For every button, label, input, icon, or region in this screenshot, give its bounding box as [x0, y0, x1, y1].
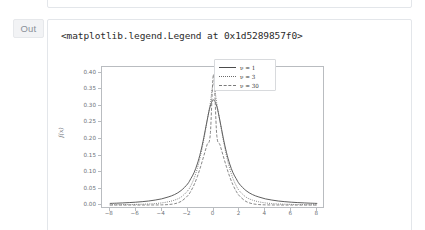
series-curve-solid — [110, 100, 317, 204]
series-curve-dotted — [110, 84, 317, 205]
y-tick-label: 0.40 — [56, 67, 101, 77]
plot-axes-frame — [101, 66, 324, 208]
y-tick-label: 0.35 — [56, 83, 101, 93]
legend-line-swatch-dashed — [219, 82, 236, 89]
legend: ν = 1ν = 3ν = 30 — [214, 59, 276, 91]
legend-entry: ν = 30 — [215, 81, 277, 90]
x-axis-label: x — [210, 227, 213, 230]
y-tick-label: 0.20 — [56, 133, 101, 143]
y-tick-label: 0.10 — [56, 166, 101, 176]
series-curve-dashed — [110, 74, 317, 205]
output-cell: <matplotlib.legend.Legend at 0x1d5289857… — [47, 19, 412, 230]
y-tick-label: 0.30 — [56, 100, 101, 110]
legend-label: ν = 1 — [240, 65, 255, 71]
legend-label: ν = 30 — [240, 83, 259, 89]
output-repr-text: <matplotlib.legend.Legend at 0x1d5289857… — [61, 30, 303, 41]
notebook-output-screen: Out <matplotlib.legend.Legend at 0x1d528… — [0, 0, 425, 230]
legend-line-swatch-dotted — [219, 73, 236, 80]
y-tick-label: 0.00 — [56, 199, 101, 209]
legend-entry: ν = 1 — [215, 63, 277, 72]
y-tick-label: 0.25 — [56, 116, 101, 126]
y-tick-label: 0.05 — [56, 183, 101, 193]
matplotlib-figure: f(x) x 0.000.050.100.150.200.250.300.350… — [56, 56, 346, 230]
legend-entry: ν = 3 — [215, 72, 277, 81]
output-gutter-label: Out — [13, 19, 44, 38]
legend-label: ν = 3 — [240, 74, 255, 80]
y-tick-label: 0.15 — [56, 150, 101, 160]
previous-input-cell-edge — [47, 0, 412, 8]
legend-line-swatch-solid — [219, 64, 236, 71]
